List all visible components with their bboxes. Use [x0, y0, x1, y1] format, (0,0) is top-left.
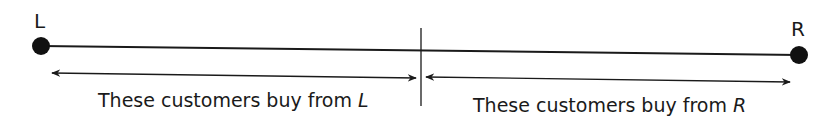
hotelling-line-diagram: L R These customers buy from L These cus…	[0, 0, 835, 129]
right-caption-text: These customers buy from	[473, 94, 733, 116]
left-segment-caption: These customers buy from L	[98, 89, 369, 111]
right-firm-label: R	[791, 17, 805, 41]
right-segment-caption: These customers buy from R	[473, 94, 746, 116]
right-caption-firm: R	[733, 94, 746, 116]
left-firm-dot	[32, 37, 50, 55]
market-line	[41, 46, 799, 55]
left-caption-text: These customers buy from	[98, 89, 358, 111]
right-firm-dot	[790, 46, 808, 64]
left-firm-label: L	[34, 9, 45, 33]
left-range-arrow	[52, 73, 416, 78]
left-caption-firm: L	[358, 89, 369, 111]
right-range-arrow	[426, 77, 790, 82]
